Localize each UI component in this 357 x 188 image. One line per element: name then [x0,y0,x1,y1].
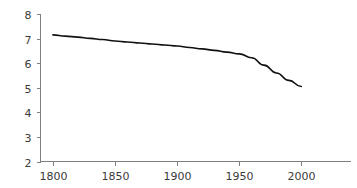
y-tick-label: 4 [25,107,32,120]
y-tick-label: 2 [25,157,32,170]
y-tick-label: 8 [25,9,32,22]
x-tick-label: 1800 [40,170,68,183]
y-tick-label: 5 [25,83,32,96]
y-tick-label: 6 [25,58,32,71]
x-tick-label: 1850 [102,170,130,183]
y-tick-label: 7 [25,34,32,47]
chart-canvas: 2345678 18001850190019502000 [0,0,357,188]
line-chart: 2345678 18001850190019502000 [0,0,357,188]
y-tick-label: 3 [25,132,32,145]
x-tick-label: 2000 [288,170,316,183]
chart-background [0,0,357,188]
x-tick-label: 1950 [226,170,254,183]
x-tick-label: 1900 [164,170,192,183]
